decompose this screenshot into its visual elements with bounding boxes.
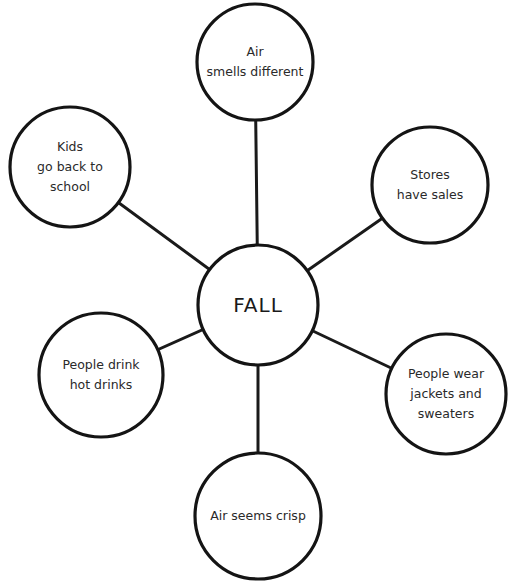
- node-label-line: People drink: [62, 355, 139, 375]
- node-label-top-left: Kidsgo back toschool: [37, 137, 103, 197]
- node-label-line: go back to: [37, 157, 103, 177]
- node-label-line: sweaters: [408, 404, 484, 424]
- node-label-line: have sales: [397, 185, 464, 205]
- node-label-line: Kids: [37, 137, 103, 157]
- node-label-line: jackets and: [408, 384, 484, 404]
- node-label-bottom-right: People wearjackets andsweaters: [408, 364, 484, 424]
- node-label-line: smells different: [207, 62, 304, 82]
- node-label-bottom: Air seems crisp: [210, 506, 306, 526]
- concept-web-canvas: [0, 0, 517, 581]
- node-label-line: school: [37, 177, 103, 197]
- node-label-line: Air: [207, 42, 304, 62]
- node-label-line: Air seems crisp: [210, 506, 306, 526]
- node-label-top: Airsmells different: [207, 42, 304, 82]
- node-label-line: Stores: [397, 165, 464, 185]
- node-label-line: People wear: [408, 364, 484, 384]
- node-label-left: People drinkhot drinks: [62, 355, 139, 395]
- node-label-line: hot drinks: [62, 375, 139, 395]
- node-label-right: Storeshave sales: [397, 165, 464, 205]
- center-node-label: FALL: [233, 295, 283, 315]
